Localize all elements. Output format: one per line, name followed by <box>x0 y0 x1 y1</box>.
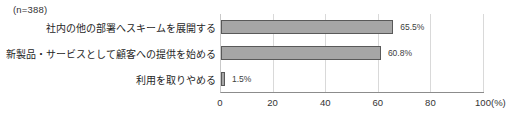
value-label: 65.5% <box>400 22 424 32</box>
x-tick-label: 0 <box>217 97 222 108</box>
x-tick-label: 20 <box>267 97 278 108</box>
axis-unit-label: (%) <box>491 97 506 108</box>
x-tick-label: 40 <box>320 97 331 108</box>
x-tick-label: 100 <box>475 97 491 108</box>
category-label: 社内の他の部署へスキームを展開する <box>46 20 216 35</box>
bar <box>221 46 381 60</box>
gridline <box>430 14 431 92</box>
bar-chart: (n=388) 社内の他の部署へスキームを展開する新製品・サービスとして顧客への… <box>0 0 530 116</box>
category-label: 新製品・サービスとして顧客への提供を始める <box>6 46 216 61</box>
bar <box>221 20 393 34</box>
plot-area: 65.5%60.8%1.5% <box>220 14 484 93</box>
gridline <box>483 14 484 92</box>
value-label: 60.8% <box>388 48 412 58</box>
x-tick-label: 80 <box>425 97 436 108</box>
sample-size-label: (n=388) <box>13 4 47 15</box>
category-label: 利用を取りやめる <box>136 72 216 87</box>
value-label: 1.5% <box>232 74 251 84</box>
bar <box>221 72 225 86</box>
x-tick-label: 60 <box>373 97 384 108</box>
